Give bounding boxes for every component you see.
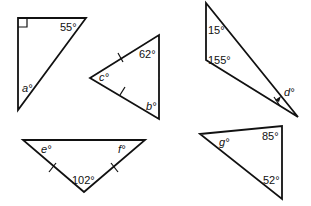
right-angle-marker <box>18 18 27 27</box>
angle-d-label: d° <box>284 86 295 98</box>
angle-155-label: 155° <box>208 54 231 66</box>
triangle-bc: 62° c° b° <box>90 35 159 119</box>
angle-f-label: f° <box>118 143 126 155</box>
angle-15-label: 15° <box>208 24 225 36</box>
triangles-diagram: 55° a° 62° c° b° 15° 155° d° e° f° 102° … <box>0 0 311 206</box>
angle-e-label: e° <box>41 143 52 155</box>
angle-c-label: c° <box>99 71 110 83</box>
triangle-d: 15° 155° d° <box>206 3 298 117</box>
angle-85-label: 85° <box>262 130 279 142</box>
angle-a-label: a° <box>22 82 33 94</box>
angle-g-label: g° <box>219 136 230 148</box>
equal-side-tick-lower <box>120 87 125 95</box>
angle-62-label: 62° <box>139 48 156 60</box>
triangle-ef: e° f° 102° <box>23 140 145 192</box>
angle-52-label: 52° <box>263 174 280 186</box>
triangle-g: g° 85° 52° <box>200 126 282 199</box>
angle-102-label: 102° <box>72 174 95 186</box>
angle-55-label: 55° <box>60 21 77 33</box>
angle-b-label: b° <box>146 100 157 112</box>
triangle-a: 55° a° <box>18 18 86 110</box>
